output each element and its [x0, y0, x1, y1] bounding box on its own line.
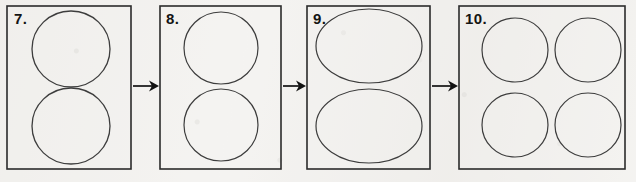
figure-canvas: 7. 8. 9. 10. — [0, 0, 636, 182]
panel-9-number-label: 9. — [313, 11, 326, 26]
panel-8-number-label: 8. — [166, 11, 179, 26]
panel-number-labels: 7. 8. 9. 10. — [0, 0, 636, 182]
panel-10-number-label: 10. — [465, 11, 487, 26]
panel-7-number-label: 7. — [14, 11, 27, 26]
